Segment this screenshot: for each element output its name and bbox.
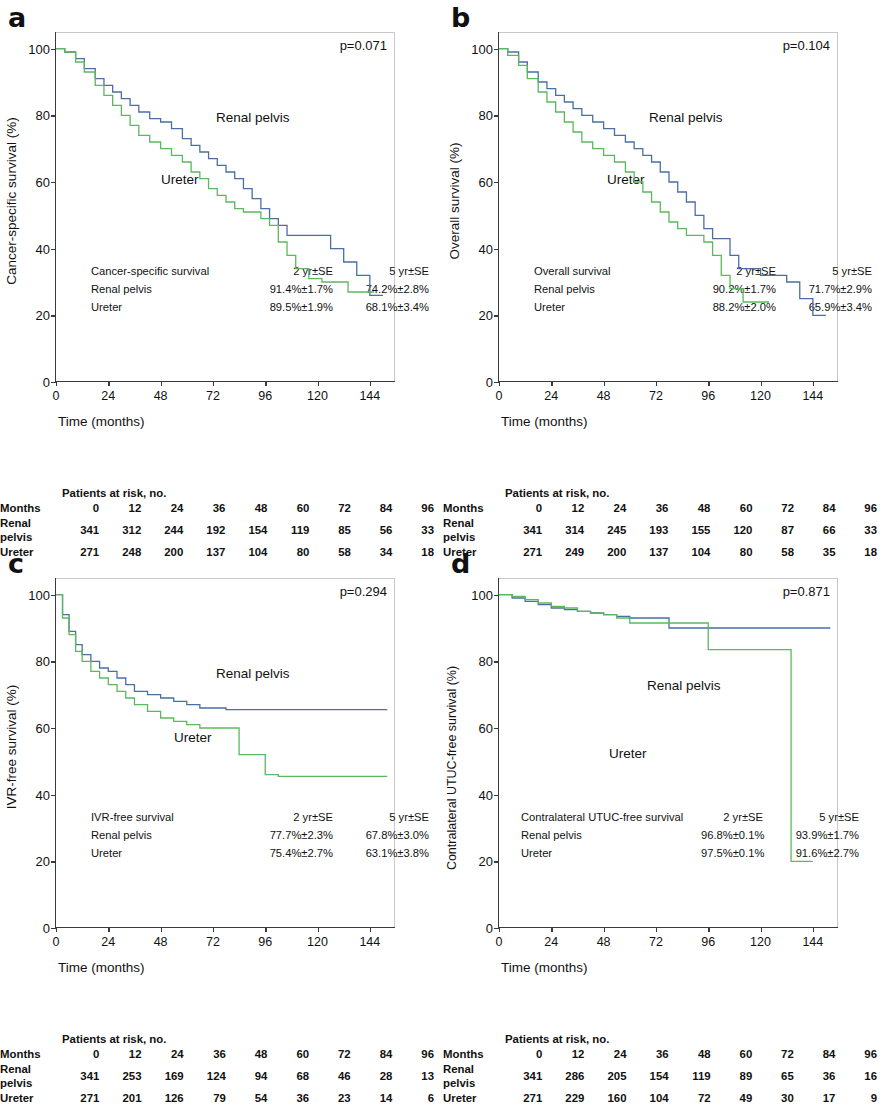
- y-tick-label: 40: [479, 787, 493, 802]
- risk-cell: 160: [587, 1091, 629, 1106]
- risk-cell: 205: [587, 1062, 629, 1091]
- y-tick-label: 80: [479, 108, 493, 123]
- curve-renal-pelvis: [56, 595, 387, 710]
- x-axis-title-c: Time (months): [58, 960, 145, 975]
- x-tick-label: 48: [597, 935, 611, 949]
- plot-axes-c: p=0.294 Renal pelvis Ureter IVR-free sur…: [55, 578, 395, 928]
- y-tick-label: 60: [36, 721, 50, 736]
- risk-cell: 192: [186, 516, 228, 545]
- x-axis-title-b: Time (months): [501, 414, 588, 429]
- risk-cell: 48: [671, 501, 713, 516]
- curve-ureter: [56, 595, 387, 777]
- risk-cell: 341: [60, 1062, 102, 1091]
- x-tick-label: 72: [649, 389, 663, 403]
- risk-cell: 48: [229, 1047, 271, 1062]
- risk-cell: 46: [312, 1062, 354, 1091]
- risk-cell: 96: [838, 1047, 880, 1062]
- y-tick-label: 20: [479, 854, 493, 869]
- risk-row-label: Months: [0, 1047, 60, 1062]
- y-tick-label: 40: [36, 241, 50, 256]
- survival-curves: [56, 578, 396, 928]
- risk-cell: 155: [671, 516, 713, 545]
- risk-cell: 36: [186, 501, 228, 516]
- risk-cell: 30: [755, 1091, 797, 1106]
- plot-area-c: IVR-free survival (%) p=0.294 Renal pelv…: [0, 568, 437, 988]
- risk-cell: 79: [187, 1091, 229, 1106]
- x-tick-label: 48: [154, 389, 168, 403]
- risk-table-title-c: Patients at risk, no.: [62, 1033, 437, 1045]
- x-tick-label: 24: [101, 935, 115, 949]
- risk-table-c: Patients at risk, no. Months012243648607…: [0, 1033, 437, 1106]
- risk-cell: 54: [229, 1091, 271, 1106]
- plot-axes-a: p=0.071 Renal pelvis Ureter Cancer-speci…: [55, 32, 395, 382]
- risk-cell: 28: [354, 1062, 396, 1091]
- risk-cell: 169: [145, 1062, 187, 1091]
- risk-cell: 87: [755, 516, 797, 545]
- risk-cell: 312: [102, 516, 144, 545]
- y-tick-label: 40: [479, 241, 493, 256]
- risk-cell: 120: [713, 516, 755, 545]
- risk-cell: 271: [60, 1091, 102, 1106]
- risk-cell: 17: [797, 1091, 839, 1106]
- curve-ureter: [499, 49, 769, 302]
- risk-row-label: Months: [443, 501, 503, 516]
- risk-cell: 126: [145, 1091, 187, 1106]
- risk-header-row: Months01224364860728496: [443, 1047, 880, 1062]
- x-tick-label: 0: [496, 935, 503, 949]
- risk-table-row: Renal pelvis341312244192154119855633: [0, 516, 437, 545]
- y-tick-label: 0: [43, 921, 50, 936]
- x-tick-label: 72: [649, 935, 663, 949]
- risk-cell: 12: [102, 1047, 144, 1062]
- x-tick-label: 96: [258, 935, 272, 949]
- risk-table-d: Patients at risk, no. Months012243648607…: [443, 1033, 880, 1106]
- risk-cell: 66: [797, 516, 839, 545]
- y-tick-label: 20: [479, 308, 493, 323]
- risk-header-row: Months01224364860728496: [0, 501, 437, 516]
- risk-cell: 9: [838, 1091, 880, 1106]
- risk-cell: 36: [797, 1062, 839, 1091]
- risk-cell: 12: [102, 501, 144, 516]
- risk-cell: 24: [144, 501, 186, 516]
- risk-cell: 24: [587, 501, 629, 516]
- risk-row-label: Renal pelvis: [0, 516, 60, 545]
- risk-row-label: Renal pelvis: [0, 1062, 60, 1091]
- risk-cell: 24: [587, 1047, 629, 1062]
- y-axis-label-a: Cancer-specific survival (%): [4, 36, 22, 366]
- risk-row-label: Months: [0, 501, 60, 516]
- survival-curves: [56, 32, 396, 382]
- curve-renal-pelvis: [56, 49, 383, 296]
- risk-cell: 36: [629, 501, 671, 516]
- risk-cell: 84: [797, 501, 839, 516]
- y-tick-label: 80: [36, 654, 50, 669]
- survival-curves: [499, 32, 839, 382]
- plot-axes-d: p=0.871 Renal pelvis Ureter Contralatera…: [498, 578, 838, 928]
- risk-table-title-a: Patients at risk, no.: [62, 487, 437, 499]
- curve-ureter: [56, 49, 374, 292]
- risk-cell: 201: [102, 1091, 144, 1106]
- risk-cell: 154: [629, 1062, 671, 1091]
- risk-table-grid-d: Months01224364860728496Renal pelvis34128…: [443, 1047, 880, 1106]
- survival-curves: [499, 578, 839, 928]
- risk-row-label: Ureter: [0, 1091, 60, 1106]
- x-tick-label: 0: [53, 935, 60, 949]
- risk-cell: 12: [545, 501, 587, 516]
- risk-cell: 68: [270, 1062, 312, 1091]
- risk-cell: 36: [187, 1047, 229, 1062]
- y-tick-label: 60: [479, 175, 493, 190]
- risk-row-label: Renal pelvis: [443, 516, 503, 545]
- risk-cell: 48: [228, 501, 270, 516]
- risk-table-row: Renal pelvis34128620515411989653616: [443, 1062, 880, 1091]
- x-axis-title-a: Time (months): [58, 414, 145, 429]
- y-tick-label: 100: [471, 41, 493, 56]
- y-axis-label-c: IVR-free survival (%): [4, 582, 22, 912]
- risk-cell: 84: [354, 1047, 396, 1062]
- curve-ureter: [499, 595, 813, 862]
- panel-d: d Contralateral UTUC-free survival (%) p…: [443, 546, 880, 1092]
- y-tick-label: 80: [479, 654, 493, 669]
- risk-table-title-d: Patients at risk, no.: [505, 1033, 880, 1045]
- y-tick-label: 100: [28, 587, 50, 602]
- y-axis-label-b: Overall survival (%): [447, 36, 465, 366]
- y-tick-label: 0: [43, 375, 50, 390]
- risk-cell: 72: [755, 1047, 797, 1062]
- plot-area-d: Contralateral UTUC-free survival (%) p=0…: [443, 568, 880, 988]
